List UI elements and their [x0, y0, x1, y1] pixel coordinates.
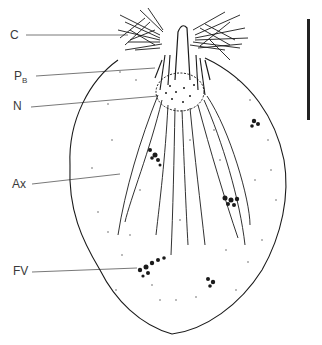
axial-fibres — [118, 95, 250, 255]
rostrum — [175, 26, 190, 80]
label-fv: FV — [13, 265, 28, 277]
cell-drawing — [0, 0, 322, 345]
food-vacuole-1 — [148, 148, 162, 167]
label-c: C — [10, 29, 19, 41]
food-vacuole-3 — [223, 196, 240, 208]
label-pb: PB — [14, 70, 27, 85]
leader-lines — [26, 35, 158, 272]
cytoplasm-stipple — [91, 71, 276, 300]
nucleus-chromatin — [165, 84, 195, 103]
food-vacuoles — [138, 119, 260, 288]
food-vacuole-2 — [250, 119, 260, 128]
scale-bar — [307, 19, 310, 120]
cell-outline — [70, 58, 286, 334]
label-n: N — [13, 100, 22, 112]
cell-diagram: C PB N Ax FV — [0, 0, 322, 345]
food-vacuole-5 — [206, 277, 215, 288]
food-vacuole-4 — [138, 256, 166, 277]
label-ax: Ax — [12, 178, 26, 190]
